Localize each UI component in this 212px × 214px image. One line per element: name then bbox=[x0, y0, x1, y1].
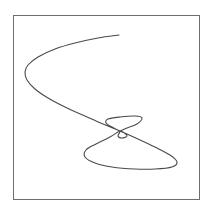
parametric-curve bbox=[25, 35, 177, 169]
plot-area bbox=[0, 0, 212, 214]
plot-frame bbox=[14, 16, 200, 200]
